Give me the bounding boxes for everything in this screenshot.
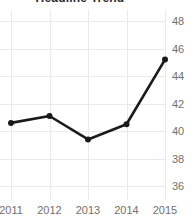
line-chart: Headline Trend 48464442403836 2011201220… — [0, 0, 195, 223]
y-tick-label-42: 42 — [172, 99, 194, 110]
x-tick-label-2012: 2012 — [30, 205, 70, 216]
data-point-2015 — [162, 57, 168, 63]
y-tick-label-36: 36 — [172, 181, 194, 192]
x-tick-label-2014: 2014 — [107, 205, 147, 216]
y-tick-label-44: 44 — [172, 71, 194, 82]
x-tick-label-2013: 2013 — [68, 205, 108, 216]
y-tick-label-38: 38 — [172, 154, 194, 165]
chart-title: Headline Trend — [0, 0, 160, 5]
series-line — [11, 60, 165, 140]
y-tick-label-48: 48 — [172, 16, 194, 27]
plot-area — [0, 10, 166, 200]
data-point-2011 — [8, 120, 14, 126]
data-point-2012 — [47, 113, 53, 119]
x-tick-label-2011: 2011 — [0, 205, 31, 216]
y-tick-label-40: 40 — [172, 126, 194, 137]
series-markers — [8, 57, 168, 143]
x-tick-label-2015: 2015 — [145, 205, 185, 216]
data-point-2014 — [124, 121, 130, 127]
y-tick-label-46: 46 — [172, 44, 194, 55]
series-line-group — [0, 10, 166, 200]
data-point-2013 — [85, 136, 91, 142]
